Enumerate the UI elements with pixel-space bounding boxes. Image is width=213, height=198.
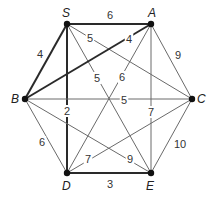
edge-weight-S-D: 2 — [64, 105, 70, 117]
vertex-E — [148, 170, 154, 176]
vertex-label-B: B — [11, 92, 19, 106]
edge-weight-A-C: 9 — [175, 49, 181, 61]
edge-S-B — [25, 24, 67, 99]
edge-weight-S-C: 5 — [87, 32, 93, 44]
edge-weight-A-B: 4 — [126, 33, 132, 45]
vertex-label-A: A — [147, 6, 156, 20]
edge-A-C — [151, 24, 192, 99]
vertex-label-S: S — [62, 6, 70, 20]
vertex-label-D: D — [62, 179, 71, 193]
vertex-D — [64, 170, 70, 176]
vertex-S — [64, 21, 70, 27]
edge-weight-S-E: 5 — [94, 72, 100, 84]
edge-weight-S-A: 6 — [107, 9, 113, 21]
vertex-A — [148, 21, 154, 27]
edge-weight-A-D: 6 — [119, 71, 125, 83]
vertex-B — [22, 96, 28, 102]
edge-weight-C-D: 7 — [85, 153, 91, 165]
vertex-label-E: E — [146, 179, 155, 193]
weighted-graph-diagram: 6425546795697103 SABCDE — [0, 0, 213, 198]
edge-weight-B-E: 9 — [127, 153, 133, 165]
edge-weight-D-E: 3 — [107, 178, 113, 190]
edges-group — [25, 24, 192, 173]
edge-weight-B-D: 6 — [39, 136, 45, 148]
edge-weight-S-B: 4 — [37, 48, 43, 60]
edge-weight-A-E: 7 — [148, 106, 154, 118]
edge-weight-C-E: 10 — [174, 138, 186, 150]
edge-C-E — [151, 99, 192, 173]
edge-weight-B-C: 5 — [121, 94, 127, 106]
vertex-C — [189, 96, 195, 102]
vertex-label-C: C — [197, 92, 206, 106]
